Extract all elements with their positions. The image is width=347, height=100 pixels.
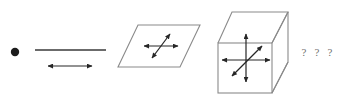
- plane-group: [118, 25, 200, 67]
- question-mark-2: ?: [315, 46, 320, 58]
- cube-group: [218, 12, 288, 93]
- cube-edge-top-right-diagonal: [272, 12, 288, 43]
- point-dot: [11, 48, 19, 56]
- dimension-progression-figure: ? ? ?: [0, 0, 347, 100]
- cube-top-face-edges: [218, 12, 288, 43]
- figure-canvas: ? ? ?: [0, 0, 347, 100]
- cube-front-face: [218, 43, 272, 93]
- question-mark-3: ?: [328, 46, 333, 58]
- point-group: [11, 48, 19, 56]
- question-mark-1: ?: [302, 46, 307, 58]
- cube-right-face-edges: [272, 12, 288, 93]
- cube-edge-bottom-right-diagonal: [272, 62, 288, 93]
- cube-arrow-diagonal: [232, 46, 262, 76]
- question-marks-group: ? ? ?: [302, 46, 333, 58]
- line-group: [35, 50, 106, 66]
